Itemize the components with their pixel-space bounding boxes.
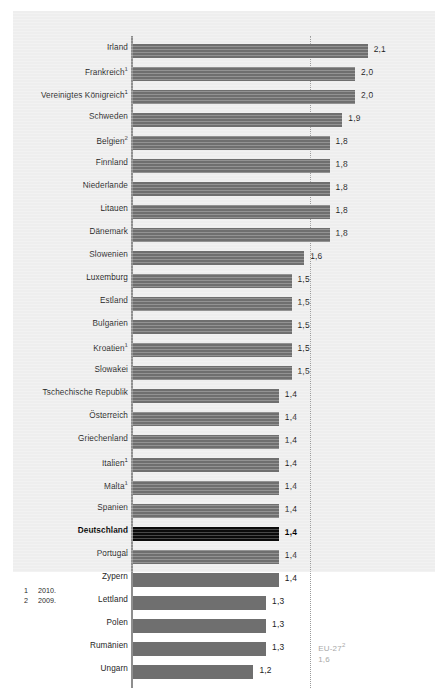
bar — [133, 343, 292, 357]
bar-value-label: 1,4 — [285, 435, 297, 445]
footnote-number: 1 — [24, 586, 38, 596]
bar-value-label: 1,8 — [336, 159, 348, 169]
bar — [133, 619, 266, 633]
bar-row: Schweden1,9 — [13, 109, 435, 132]
bar-row: Ungarn1,2 — [13, 661, 435, 684]
footnote-marker: 1 — [125, 457, 128, 463]
bar — [133, 67, 355, 81]
plot-area: Irland2,1Frankreich12,0Vereinigtes König… — [13, 11, 435, 572]
footnote-number: 2 — [24, 596, 38, 606]
bar-row: Vereinigtes Königreich12,0 — [13, 86, 435, 109]
bar-row: Estland1,5 — [13, 293, 435, 316]
bar-row-label: Rumänien — [90, 641, 128, 650]
bar-value-label: 1,4 — [285, 504, 297, 514]
bar-row-label: Schweden — [89, 112, 128, 121]
bar-row-label: Polen — [107, 618, 128, 627]
bar — [133, 251, 304, 265]
bar-row: Kroatien11,5 — [13, 339, 435, 362]
bar-value-label: 1,4 — [285, 481, 297, 491]
bar — [133, 297, 292, 311]
footnote-marker: 1 — [125, 342, 128, 348]
bar — [133, 458, 279, 472]
bar — [133, 412, 279, 426]
bar-row-label: Malta1 — [104, 480, 128, 491]
bar — [133, 205, 330, 219]
bar — [133, 44, 368, 58]
footnote-row: 12010. — [24, 586, 56, 596]
bar-row-label: Griechenland — [78, 434, 128, 443]
bar — [133, 665, 253, 679]
bar-value-label: 1,3 — [272, 596, 284, 606]
bar-row-label: Lettland — [98, 595, 128, 604]
bar-row-label: Litauen — [100, 204, 128, 213]
bar — [133, 228, 330, 242]
bar-value-label: 1,3 — [272, 642, 284, 652]
bar-value-label: 1,8 — [336, 228, 348, 238]
footnote-marker: 2 — [125, 135, 128, 141]
eu27-annotation-value: 1,6 — [318, 654, 345, 665]
bar-row: Zypern1,4 — [13, 569, 435, 592]
bar-value-label: 2,0 — [361, 67, 373, 77]
bar-value-label: 1,5 — [298, 343, 310, 353]
bar-value-label: 2,1 — [374, 44, 386, 54]
footnotes: 12010.22009. — [24, 586, 56, 606]
bar-value-label: 1,5 — [298, 274, 310, 284]
bar-row: Belgien21,8 — [13, 132, 435, 155]
bar-row-label: Italien1 — [102, 457, 128, 468]
bar-row-label: Dänemark — [89, 227, 128, 236]
bar-row-label: Spanien — [97, 503, 128, 512]
bar-row-label: Niederlande — [83, 181, 128, 190]
bar-row: Griechenland1,4 — [13, 431, 435, 454]
bar-row: Slowakei1,5 — [13, 362, 435, 385]
bar-value-label: 1,3 — [272, 619, 284, 629]
bar-value-label: 1,2 — [259, 665, 271, 675]
footnote-marker: 1 — [125, 480, 128, 486]
bar-value-label: 2,0 — [361, 90, 373, 100]
bar-row-label: Irland — [107, 43, 128, 52]
bar-row-label: Estland — [100, 296, 128, 305]
bar-rows: Irland2,1Frankreich12,0Vereinigtes König… — [13, 40, 435, 684]
bar-row: Niederlande1,8 — [13, 178, 435, 201]
bar-row: Luxemburg1,5 — [13, 270, 435, 293]
bar-row: Österreich1,4 — [13, 408, 435, 431]
eu27-annotation: EU-272 1,6 — [318, 640, 345, 665]
bar — [133, 550, 279, 564]
bar-value-label: 1,4 — [285, 573, 297, 583]
bar — [133, 90, 355, 104]
bar — [133, 366, 292, 380]
bar-row-label: Frankreich1 — [85, 66, 128, 77]
bar-row: Finnland1,8 — [13, 155, 435, 178]
bar-row: Tschechische Republik1,4 — [13, 385, 435, 408]
bar-row: Slowenien1,6 — [13, 247, 435, 270]
bar-value-label: 1,8 — [336, 136, 348, 146]
bar — [133, 435, 279, 449]
bar — [133, 596, 266, 610]
bar-row: Portugal1,4 — [13, 546, 435, 569]
bar-row: Dänemark1,8 — [13, 224, 435, 247]
bar-value-label: 1,4 — [285, 412, 297, 422]
bar-row: Rumänien1,3 — [13, 638, 435, 661]
bar — [133, 573, 279, 587]
bar-value-label: 1,5 — [298, 366, 310, 376]
bar-value-label: 1,8 — [336, 182, 348, 192]
bar-value-label: 1,5 — [298, 320, 310, 330]
footnote-row: 22009. — [24, 596, 56, 606]
bar-row: Spanien1,4 — [13, 500, 435, 523]
bar — [133, 159, 330, 173]
bar-value-label: 1,5 — [298, 297, 310, 307]
bar-row-label: Tschechische Republik — [43, 388, 128, 397]
bar-row: Polen1,3 — [13, 615, 435, 638]
chart-panel: Irland2,1Frankreich12,0Vereinigtes König… — [13, 11, 435, 572]
bar — [133, 113, 342, 127]
bar — [133, 389, 279, 403]
bar-value-label: 1,4 — [285, 527, 297, 537]
bar — [133, 320, 292, 334]
footnote-marker: 1 — [125, 89, 128, 95]
bar-value-label: 1,8 — [336, 205, 348, 215]
bar-value-label: 1,4 — [285, 389, 297, 399]
bar-row-label: Belgien2 — [97, 135, 128, 146]
bar-value-label: 1,4 — [285, 550, 297, 560]
bar-row: Irland2,1 — [13, 40, 435, 63]
bar-row-label: Luxemburg — [86, 273, 128, 282]
footnote-text: 2009. — [38, 596, 56, 605]
